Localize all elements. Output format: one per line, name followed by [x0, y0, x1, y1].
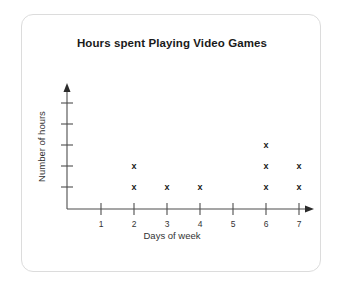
y-axis-label: Number of hours — [36, 92, 47, 202]
x-axis-label: Days of week — [62, 230, 282, 241]
x-tick-label-3: 3 — [165, 219, 170, 229]
data-marker: x — [164, 182, 169, 192]
data-marker: x — [263, 161, 268, 171]
x-tick-label-7: 7 — [297, 219, 302, 229]
data-marker: x — [197, 182, 202, 192]
x-tick-label-1: 1 — [99, 219, 104, 229]
data-marker: x — [296, 182, 301, 192]
data-marker: x — [131, 161, 136, 171]
x-tick-label-6: 6 — [264, 219, 269, 229]
x-tick-label-2: 2 — [132, 219, 137, 229]
chart-card: Hours spent Playing Video Games 1 2 3 4 … — [21, 14, 321, 272]
data-marker: x — [263, 140, 268, 150]
data-marker: x — [296, 161, 301, 171]
x-axis-arrowhead — [305, 206, 314, 213]
x-tick-label-4: 4 — [198, 219, 203, 229]
data-marker: x — [131, 182, 136, 192]
data-marker: x — [263, 182, 268, 192]
x-tick-label-5: 5 — [231, 219, 236, 229]
y-axis-arrowhead — [64, 83, 71, 92]
